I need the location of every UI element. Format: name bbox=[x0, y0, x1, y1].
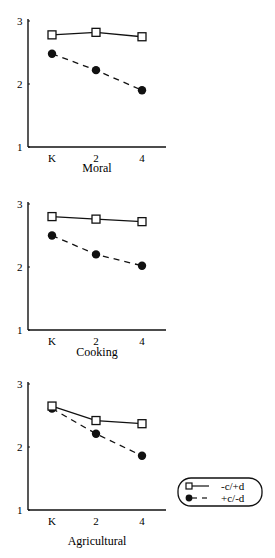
filled-circle-marker-icon bbox=[92, 66, 100, 74]
chart-panel-agricultural: 123K24Agricultural bbox=[17, 378, 166, 548]
open-square-marker-icon bbox=[48, 402, 56, 410]
open-square-marker-icon bbox=[48, 31, 56, 39]
legend-entry-plus-c-minus-d: +c/-d bbox=[186, 492, 245, 504]
open-square-marker-icon bbox=[186, 483, 192, 489]
filled-circle-marker-icon bbox=[138, 452, 146, 460]
filled-circle-marker-icon bbox=[138, 86, 146, 94]
x-tick-label: 4 bbox=[139, 152, 145, 164]
open-square-marker-icon bbox=[138, 420, 146, 428]
y-tick-label: 1 bbox=[17, 141, 23, 153]
y-tick-label: 2 bbox=[17, 78, 23, 90]
chart-title: Agricultural bbox=[68, 534, 127, 548]
filled-circle-marker-icon bbox=[138, 262, 146, 270]
chart-title: Cooking bbox=[76, 345, 117, 359]
legend: -c/+d +c/-d bbox=[178, 478, 262, 506]
filled-circle-marker-icon bbox=[48, 231, 56, 239]
x-tick-label: 4 bbox=[139, 335, 145, 347]
chart-title: Moral bbox=[82, 161, 112, 175]
x-tick-label: K bbox=[48, 335, 56, 347]
chart-panel-moral: 123K24Moral bbox=[17, 15, 166, 175]
y-tick-label: 3 bbox=[17, 15, 23, 27]
filled-circle-marker-icon bbox=[92, 430, 100, 438]
y-tick-label: 2 bbox=[17, 261, 23, 273]
figure-canvas: 123K24Moral 123K24Cooking 123K24Agricult… bbox=[0, 0, 275, 558]
open-square-marker-icon bbox=[138, 218, 146, 226]
open-square-marker-icon bbox=[92, 28, 100, 36]
legend-label: -c/+d bbox=[221, 480, 245, 492]
open-square-marker-icon bbox=[92, 417, 100, 425]
x-tick-label: 4 bbox=[139, 515, 145, 527]
legend-label: +c/-d bbox=[221, 492, 245, 504]
legend-frame bbox=[178, 478, 262, 506]
filled-circle-marker-icon bbox=[92, 250, 100, 258]
legend-entry-minus-c-plus-d: -c/+d bbox=[186, 480, 245, 492]
y-tick-label: 3 bbox=[17, 198, 23, 210]
x-tick-label: K bbox=[48, 152, 56, 164]
y-tick-label: 3 bbox=[17, 378, 23, 390]
x-tick-label: 2 bbox=[93, 515, 99, 527]
filled-circle-marker-icon bbox=[48, 50, 56, 58]
y-tick-label: 1 bbox=[17, 504, 23, 516]
open-square-marker-icon bbox=[92, 215, 100, 223]
open-square-marker-icon bbox=[48, 213, 56, 221]
filled-circle-marker-icon bbox=[186, 495, 193, 502]
open-square-marker-icon bbox=[138, 33, 146, 41]
y-tick-label: 2 bbox=[17, 441, 23, 453]
y-tick-label: 1 bbox=[17, 324, 23, 336]
chart-panel-cooking: 123K24Cooking bbox=[17, 198, 166, 359]
x-tick-label: K bbox=[48, 515, 56, 527]
